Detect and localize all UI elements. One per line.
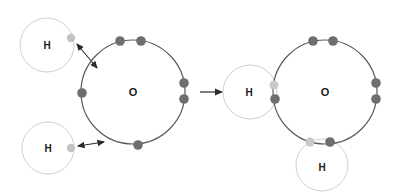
- o-electron-right-upper: [179, 78, 189, 88]
- hydrogen-label: H: [43, 40, 50, 51]
- shared-o-electron-left: [270, 94, 280, 104]
- hydrogen-bonded-bottom: H: [296, 139, 348, 191]
- shared-h-electron-left: [270, 81, 279, 90]
- hydrogen-top-left: H: [20, 18, 75, 72]
- o-electron-top-left: [115, 36, 125, 46]
- oxygen-label: O: [129, 86, 138, 98]
- hydrogen-bonded-left: H: [223, 65, 277, 119]
- o-electron-bottom: [133, 140, 143, 150]
- diagram-canvas: H H O: [0, 0, 396, 194]
- oxygen-reactant: O: [77, 36, 189, 150]
- o-electron-top-right: [328, 36, 338, 46]
- h-electron-bottom-left: [67, 144, 75, 152]
- hydrogen-label: H: [318, 162, 325, 173]
- hydrogen-bottom-left: H: [22, 122, 75, 174]
- shared-pair-left: [270, 81, 280, 104]
- oxygen-product: O: [273, 36, 381, 144]
- o-electron-right-lower: [179, 94, 189, 104]
- hydrogen-label: H: [44, 143, 51, 154]
- o-electron-left: [77, 88, 87, 98]
- reactants-group: H H O: [20, 18, 189, 174]
- shared-h-electron-bottom: [306, 138, 315, 147]
- hydrogen-label: H: [245, 87, 252, 98]
- shared-o-electron-bottom: [325, 137, 335, 147]
- o-electron-right-lower: [371, 94, 381, 104]
- o-electron-top-right: [136, 36, 146, 46]
- attraction-arrow-upper: [77, 44, 97, 68]
- o-electron-top-left: [308, 36, 318, 46]
- molecule-diagram-svg: H H O: [0, 0, 396, 194]
- attraction-arrow-lower: [78, 142, 104, 146]
- h-electron-top-left: [67, 34, 75, 42]
- oxygen-label: O: [321, 86, 330, 98]
- o-electron-right-upper: [371, 78, 381, 88]
- product-group: H H O: [223, 36, 381, 191]
